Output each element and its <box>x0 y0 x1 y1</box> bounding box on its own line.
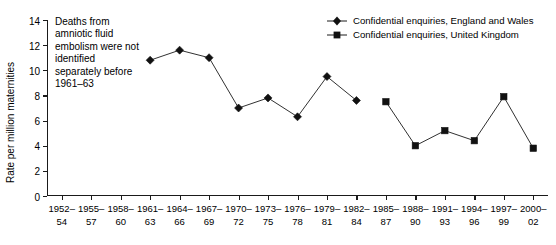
x-axis-tick <box>474 196 475 200</box>
legend-item-united-kingdom: Confidential enquiries, United Kingdom <box>326 28 533 42</box>
x-axis-tick <box>268 196 269 200</box>
data-point-marker <box>264 94 272 102</box>
data-point-marker <box>235 104 243 112</box>
data-point-marker <box>501 93 507 99</box>
y-axis-title: Rate per million maternities <box>0 0 20 245</box>
y-axis-tick-label: 0 <box>34 191 40 202</box>
y-axis-tick-label: 6 <box>34 116 40 127</box>
x-axis-tick <box>62 196 63 200</box>
x-axis-tick <box>239 196 240 200</box>
y-axis-tick: 0 <box>43 196 47 197</box>
chart-figure: Rate per million maternities 02468101214… <box>0 0 556 245</box>
data-point-marker <box>412 143 418 149</box>
data-point-marker <box>442 127 448 133</box>
legend-item-england-wales: Confidential enquiries, England and Wale… <box>326 14 533 28</box>
data-point-marker <box>471 137 477 143</box>
chart-legend: Confidential enquiries, England and Wale… <box>326 14 533 42</box>
x-axis-tick <box>298 196 299 200</box>
x-axis-tick-label: 2000– 02 <box>511 203 555 228</box>
data-point-marker <box>205 54 213 62</box>
x-axis-tick <box>180 196 181 200</box>
x-axis-tick <box>445 196 446 200</box>
data-point-marker <box>176 46 184 54</box>
series-line-1 <box>386 97 533 149</box>
y-axis-tick-label: 4 <box>34 141 40 152</box>
series-line-0 <box>150 50 356 117</box>
y-axis-tick-label: 2 <box>34 166 40 177</box>
y-axis-tick-label: 14 <box>29 15 40 26</box>
x-axis-tick <box>209 196 210 200</box>
x-axis-tick <box>121 196 122 200</box>
diamond-marker-icon <box>326 15 348 27</box>
x-axis-tick <box>150 196 151 200</box>
square-marker-icon <box>326 29 348 41</box>
legend-label-england-wales: Confidential enquiries, England and Wale… <box>353 14 533 28</box>
data-point-marker <box>383 99 389 105</box>
y-axis-tick-label: 10 <box>29 65 40 76</box>
data-point-marker <box>294 113 302 121</box>
data-point-marker <box>530 145 536 151</box>
legend-label-united-kingdom: Confidential enquiries, United Kingdom <box>353 28 519 42</box>
y-axis-tick-label: 8 <box>34 91 40 102</box>
x-axis-tick <box>327 196 328 200</box>
x-axis-tick <box>415 196 416 200</box>
chart-annotation: Deaths from amniotic fluid embolism were… <box>55 16 167 90</box>
x-axis-tick <box>91 196 92 200</box>
x-axis-tick <box>356 196 357 200</box>
y-axis-tick-label: 12 <box>29 40 40 51</box>
x-axis-tick <box>533 196 534 200</box>
x-axis-tick <box>504 196 505 200</box>
x-axis-tick <box>386 196 387 200</box>
